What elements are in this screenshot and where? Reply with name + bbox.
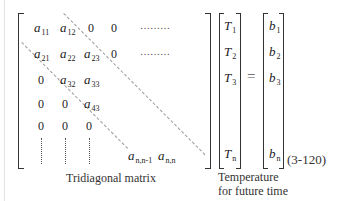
matrix-cell-a33: a33 — [84, 72, 100, 89]
b-vector-entry: bn — [269, 146, 281, 163]
t-vector-entry: T2 — [224, 44, 236, 61]
matrix-cell-zero: 0 — [111, 47, 117, 62]
page-edge-line — [4, 0, 5, 201]
matrix-cell-zero: 0 — [62, 119, 68, 134]
matrix-cell-a32: a32 — [60, 72, 76, 89]
b-vector-entry: b3 — [269, 70, 281, 87]
b-vector-entry: b2 — [269, 44, 281, 61]
matrix-caption: Tridiagonal matrix — [66, 171, 156, 186]
matrix-cell-zero: 0 — [86, 119, 92, 134]
matrix-cell-zero: 0 — [38, 119, 44, 134]
matrix-cell-a21: a21 — [34, 46, 50, 63]
matrix-cell-a22: a22 — [60, 46, 76, 63]
column-vertical-ellipsis — [89, 138, 90, 164]
column-vertical-ellipsis — [41, 138, 42, 164]
vector-caption-line1: Temperature — [218, 170, 278, 185]
matrix-cell-a43: a43 — [84, 96, 100, 113]
matrix-cell-a23: a23 — [84, 46, 100, 63]
matrix-cell-zero: 0 — [38, 73, 44, 88]
matrix-row-ellipsis: ……… — [140, 20, 170, 31]
matrix-cell-zero: 0 — [62, 97, 68, 112]
matrix-cell-ann: an,n — [158, 148, 176, 165]
matrix-cell-zero: 0 — [88, 21, 94, 36]
matrix-row-ellipsis: ……… — [140, 46, 170, 57]
t-vector-right-bracket — [236, 13, 241, 169]
matrix-right-bracket — [205, 13, 211, 169]
matrix-cell-zero: 0 — [38, 97, 44, 112]
matrix-cell-a12: a12 — [60, 20, 76, 37]
matrix-left-bracket — [18, 13, 24, 169]
matrix-cell-zero: 0 — [111, 21, 117, 36]
equation-number: (3-120) — [287, 152, 326, 168]
b-vector-entry: b1 — [269, 18, 281, 35]
matrix-cell-ann-1: an,n-1 — [128, 148, 152, 165]
matrix-cell-a11: a11 — [34, 20, 49, 37]
t-vector-entry: T1 — [224, 18, 236, 35]
equals-sign: = — [247, 68, 255, 85]
b-vector-left-bracket — [263, 13, 268, 169]
vector-caption-line2: for future time — [218, 184, 288, 199]
t-vector-entry: T3 — [224, 70, 236, 87]
column-vertical-ellipsis — [65, 138, 66, 164]
t-vector-entry: Tn — [224, 146, 236, 163]
